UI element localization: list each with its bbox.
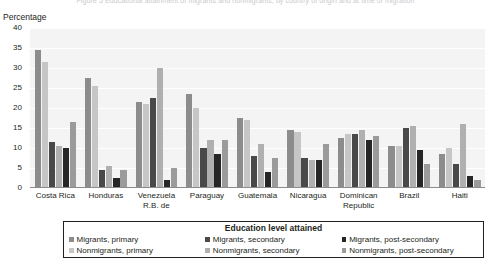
bar — [366, 140, 372, 188]
bar — [106, 166, 112, 188]
legend-item: Migrants, post-secondary — [342, 234, 478, 245]
bar — [171, 168, 177, 188]
bar — [345, 134, 351, 188]
bar — [359, 130, 365, 188]
x-axis-labels: Costa RicaHondurasVenezuelaR.B. deParagu… — [30, 189, 485, 215]
bar — [373, 136, 379, 188]
bar — [460, 124, 466, 188]
bar-groups — [30, 28, 485, 188]
x-axis-label: Costa Rica — [30, 189, 81, 215]
x-axis-label: Honduras — [81, 189, 132, 215]
bar — [237, 118, 243, 188]
x-axis-label: Nicaragua — [283, 189, 334, 215]
bar — [200, 148, 206, 188]
bar — [453, 164, 459, 188]
bar — [396, 146, 402, 188]
x-axis-label: DominicanRepublic — [333, 189, 384, 215]
bar — [439, 154, 445, 188]
y-tick-label: 30 — [0, 64, 22, 72]
legend-item: Migrants, primary — [69, 234, 205, 245]
bar — [287, 130, 293, 188]
bar — [265, 172, 271, 188]
x-axis-label: Brazil — [384, 189, 435, 215]
legend-swatch-icon — [342, 237, 347, 242]
bar — [244, 120, 250, 188]
legend-item: Migrants, secondary — [205, 234, 341, 245]
bar — [186, 94, 192, 188]
bar — [309, 160, 315, 188]
bar-group — [182, 28, 233, 188]
legend-item-label: Migrants, secondary — [213, 234, 285, 245]
legend-item: Nonmigrants, post-secondary — [342, 245, 478, 256]
bar — [258, 144, 264, 188]
legend-swatch-icon — [69, 237, 74, 242]
y-tick-label: 40 — [0, 24, 22, 32]
bar — [352, 134, 358, 188]
bar — [323, 144, 329, 188]
bar — [316, 160, 322, 188]
y-tick-label: 35 — [0, 44, 22, 52]
x-axis-label: Guatemala — [232, 189, 283, 215]
plot-area — [30, 28, 485, 188]
bar — [338, 138, 344, 188]
bar — [301, 158, 307, 188]
legend-swatch-icon — [205, 237, 210, 242]
legend-item-label: Nonmigrants, post-secondary — [349, 245, 454, 256]
bar-group — [435, 28, 486, 188]
figure-caption-cutoff: Figure 5 Educational attainment of migra… — [0, 0, 491, 9]
legend-item-label: Nonmigrants, primary — [77, 245, 153, 256]
bar — [56, 146, 62, 188]
chart-legend: Education level attained Migrants, prima… — [63, 221, 484, 258]
legend-item: Nonmigrants, primary — [69, 245, 205, 256]
bar-group — [131, 28, 182, 188]
bar — [157, 68, 163, 188]
legend-item-label: Migrants, primary — [77, 234, 139, 245]
bar-group — [384, 28, 435, 188]
y-tick-label: 5 — [0, 164, 22, 172]
bar — [150, 98, 156, 188]
y-tick-label: 0 — [0, 184, 22, 192]
legend-swatch-icon — [205, 248, 210, 253]
bar — [120, 170, 126, 188]
bar — [424, 164, 430, 188]
x-axis-line — [30, 187, 485, 188]
legend-title: Education level attained — [64, 222, 483, 234]
bar — [251, 156, 257, 188]
x-axis-label: Haiti — [435, 189, 486, 215]
y-tick-label: 20 — [0, 104, 22, 112]
bar — [63, 148, 69, 188]
bar — [410, 126, 416, 188]
bar — [35, 50, 41, 188]
bar — [193, 108, 199, 188]
legend-item-label: Nonmigrants, secondary — [213, 245, 300, 256]
bar-group — [81, 28, 132, 188]
x-axis-label: VenezuelaR.B. de — [131, 189, 182, 215]
bar — [388, 146, 394, 188]
bar — [92, 86, 98, 188]
bar — [207, 140, 213, 188]
legend-swatch-icon — [69, 248, 74, 253]
bar — [42, 62, 48, 188]
legend-item-label: Migrants, post-secondary — [349, 234, 439, 245]
bar-group — [283, 28, 334, 188]
bar-group — [232, 28, 283, 188]
bar — [85, 78, 91, 188]
bar — [222, 140, 228, 188]
bar — [49, 142, 55, 188]
bar — [70, 122, 76, 188]
bar — [417, 150, 423, 188]
y-tick-label: 25 — [0, 84, 22, 92]
y-tick-label: 10 — [0, 144, 22, 152]
bar-group — [333, 28, 384, 188]
y-tick-label: 15 — [0, 124, 22, 132]
bar — [143, 104, 149, 188]
bar — [403, 128, 409, 188]
bar — [294, 132, 300, 188]
y-axis-ticks: 4035302520151050 — [0, 28, 26, 188]
legend-swatch-icon — [342, 248, 347, 253]
legend-item: Nonmigrants, secondary — [205, 245, 341, 256]
x-axis-label: Paraguay — [182, 189, 233, 215]
bar — [446, 148, 452, 188]
bar — [136, 102, 142, 188]
bar-group — [30, 28, 81, 188]
